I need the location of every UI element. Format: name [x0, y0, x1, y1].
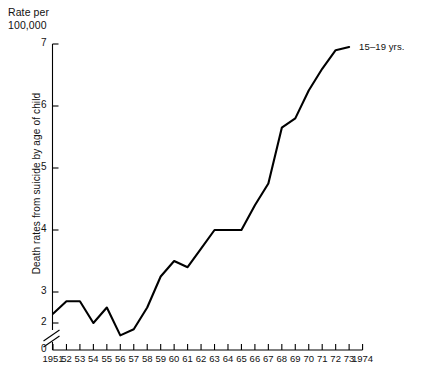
axis-break-mark: [44, 330, 60, 341]
x-tick-label: 1974: [348, 353, 378, 364]
plot-area: [0, 0, 422, 375]
suicide-rate-line-chart: Rate per 100,000 Death rates from suicid…: [0, 0, 422, 375]
y-tick-label: 4: [27, 223, 47, 234]
y-tick-label: 5: [27, 161, 47, 172]
y-tick-label: 3: [27, 285, 47, 296]
y-tick-label: 7: [27, 37, 47, 48]
y-tick-label: 2: [27, 316, 47, 327]
y-tick-label: 6: [27, 99, 47, 110]
series-line-15-19: [53, 47, 349, 335]
